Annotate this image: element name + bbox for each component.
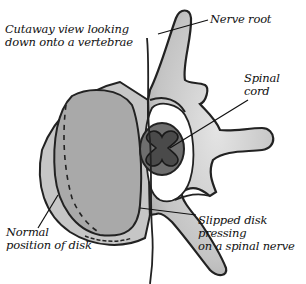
nerve-root-text: Nerve root (210, 13, 271, 26)
slipped-disk-line-3: on a spinal nerve (198, 240, 295, 253)
slipped-disk-label: Slipped disk pressing on a spinal nerve (198, 214, 295, 253)
normal-disk-line-2: position of disk (6, 239, 92, 252)
spinal-cord-label: Spinal cord (244, 72, 280, 98)
title-line-2: down onto a vertebrae (5, 36, 133, 49)
spinal-cord (140, 123, 184, 175)
normal-disk-label: Normal position of disk (6, 226, 92, 252)
title-label: Cutaway view looking down onto a vertebr… (5, 23, 133, 49)
spinal-cord-line-2: cord (244, 85, 280, 98)
nerve-root-label: Nerve root (210, 13, 271, 26)
vertebral-body (40, 82, 150, 245)
